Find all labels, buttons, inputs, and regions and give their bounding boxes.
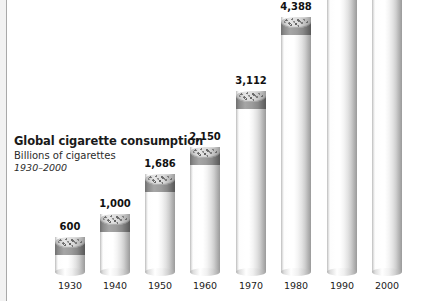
x-axis-tick-label: 1970 [226, 280, 276, 291]
x-axis-tick-label: 1930 [45, 280, 95, 291]
cigarette-base-ellipse [145, 268, 175, 276]
bar-value-label: 2,150 [180, 131, 230, 142]
x-axis-tick-label: 2000 [362, 280, 412, 291]
plot-area: 60019301,00019401,68619502,15019603,1121… [0, 0, 433, 301]
bar-group: 5,4191990 [317, 0, 367, 301]
cigarette-bar [145, 174, 175, 272]
cigarette-paper-body [327, 0, 357, 272]
cigarette-tobacco-top [236, 91, 266, 102]
cigarette-base-ellipse [55, 268, 85, 276]
bar-value-label: 3,112 [226, 75, 276, 86]
cigarette-tobacco-top [55, 237, 85, 248]
cigarette-base-ellipse [327, 268, 357, 276]
cigarette-tobacco-top [190, 147, 220, 158]
bar-group: 2,1501960 [180, 0, 230, 301]
bar-group: 3,1121970 [226, 0, 276, 301]
x-axis-tick-label: 1960 [180, 280, 230, 291]
cigarette-base-ellipse [281, 268, 311, 276]
cigarette-paper-body [190, 147, 220, 272]
cigarette-base-ellipse [100, 268, 130, 276]
cigarette-tobacco-top [145, 174, 175, 185]
cigarette-bar [100, 214, 130, 272]
bar-group: 4,3881980 [271, 0, 321, 301]
x-axis-tick-label: 1940 [90, 280, 140, 291]
cigarette-base-ellipse [372, 268, 402, 276]
cigarette-bar [327, 0, 357, 272]
cigarette-bar [236, 91, 266, 272]
bar-value-label: 4,388 [271, 1, 321, 12]
cigarette-bar [55, 237, 85, 272]
x-axis-tick-label: 1950 [135, 280, 185, 291]
cigarette-paper-body [281, 17, 311, 272]
cigarette-bar [281, 17, 311, 272]
x-axis-tick-label: 1990 [317, 280, 367, 291]
cigarette-base-ellipse [236, 268, 266, 276]
bar-group: 1,6861950 [135, 0, 185, 301]
bar-group: 1,0001940 [90, 0, 140, 301]
cigarette-tobacco-top [281, 17, 311, 28]
bar-group: 5,5002000 [362, 0, 412, 301]
bar-value-label: 1,000 [90, 198, 140, 209]
chart-figure: Global cigarette consumption Billions of… [0, 0, 433, 301]
cigarette-bar [190, 147, 220, 272]
cigarette-paper-body [236, 91, 266, 272]
cigarette-paper-body [372, 0, 402, 272]
bar-value-label: 1,686 [135, 158, 185, 169]
cigarette-base-ellipse [190, 268, 220, 276]
bar-group: 6001930 [45, 0, 95, 301]
cigarette-tobacco-top [100, 214, 130, 225]
x-axis-tick-label: 1980 [271, 280, 321, 291]
cigarette-bar [372, 0, 402, 272]
bar-value-label: 600 [45, 221, 95, 232]
